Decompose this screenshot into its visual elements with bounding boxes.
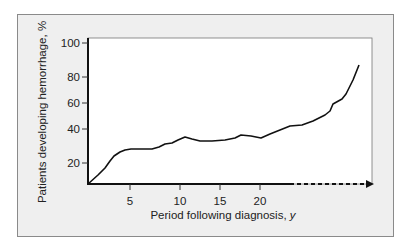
y-axis-title: Patients developing hemorrhage, %: [36, 21, 48, 203]
y-tick-label: 80: [67, 71, 80, 83]
x-ticks: 5 10 15 20: [127, 184, 267, 207]
x-tick-label: 15: [214, 195, 227, 207]
x-tick-label: 10: [174, 195, 187, 207]
chart-svg: 100 80 60 40 20 5 10 15 20 Period follow…: [0, 0, 409, 250]
y-tick-label: 40: [67, 123, 80, 135]
x-tick-label: 20: [254, 195, 267, 207]
y-ticks: 100 80 60 40 20: [61, 37, 88, 169]
x-tick-label: 5: [127, 195, 133, 207]
y-tick-label: 100: [61, 37, 80, 49]
y-tick-label: 20: [67, 157, 80, 169]
y-tick-label: 60: [67, 97, 80, 109]
x-axis-title: Period following diagnosis, y: [150, 209, 296, 221]
